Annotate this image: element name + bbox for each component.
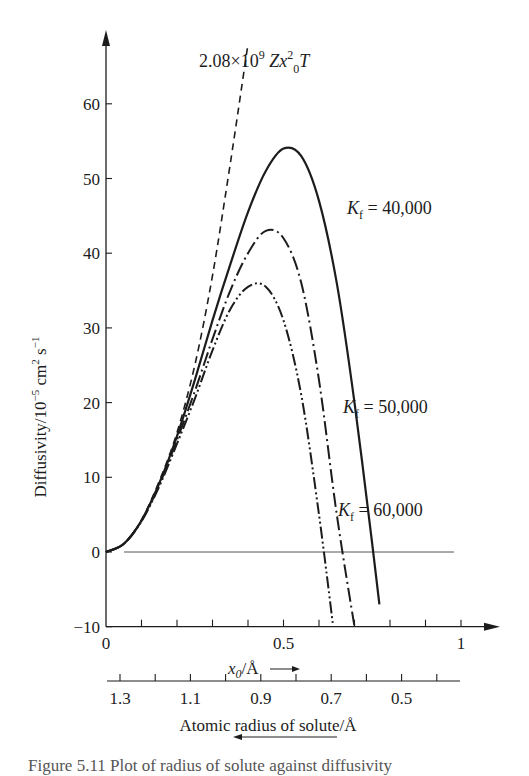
y-tick-label: 20 <box>83 394 100 413</box>
x-tick-label: 1 <box>457 634 466 653</box>
series-curve-1 <box>106 147 379 604</box>
y-tick-label: 60 <box>83 95 100 114</box>
kf-label: Kf = 60,000 <box>337 500 423 524</box>
y-tick-label: −10 <box>73 618 100 637</box>
x-axis-arrow-icon <box>484 623 500 631</box>
y-tick-label: 50 <box>83 170 100 189</box>
x-label-arrow-icon <box>292 666 300 672</box>
x-axis-label: x0/Å <box>227 659 259 681</box>
kf-label: Kf = 50,000 <box>342 397 428 421</box>
y-axis-label: Diffusivity/10−5 cm2 s−1 <box>29 337 50 498</box>
secondary-tick-label: 0.5 <box>391 689 412 708</box>
secondary-tick-label: 1.1 <box>180 689 201 708</box>
y-tick-label: 0 <box>92 543 101 562</box>
series-curve-3 <box>106 283 333 626</box>
x-tick-label: 0 <box>102 634 111 653</box>
secondary-tick-label: 1.3 <box>109 689 130 708</box>
kf-label: Kf = 40,000 <box>346 198 432 222</box>
limiting-curve-label: 2.08×109 Zx20T <box>199 48 311 76</box>
figure-caption: Figure 5.11 Plot of radius of solute aga… <box>28 756 392 776</box>
y-tick-label: 40 <box>83 244 100 263</box>
axes <box>102 30 500 681</box>
secondary-tick-label: 0.7 <box>321 689 343 708</box>
x-tick-label: 0.5 <box>273 634 294 653</box>
y-tick-label: 30 <box>83 319 100 338</box>
series-curve-0 <box>106 44 248 552</box>
y-tick-label: 10 <box>83 468 100 487</box>
secondary-tick-label: 0.9 <box>250 689 271 708</box>
secondary-axis-label: Atomic radius of solute/Å <box>179 716 357 735</box>
y-axis-arrow-icon <box>102 30 110 46</box>
curves <box>106 44 379 627</box>
labels: −10010203040506000.51x0/Å1.31.10.90.70.5… <box>29 48 465 740</box>
series-curve-2 <box>106 230 355 627</box>
